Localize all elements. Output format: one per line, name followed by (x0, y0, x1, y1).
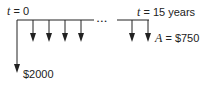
end-time-label: t = 15 years (137, 5, 196, 19)
annual-payment-arrows (30, 20, 151, 42)
cash-flow-diagram: • • • t = 0 t = 15 years $2000 A = $750 (0, 0, 206, 85)
ellipsis: • • • (97, 18, 107, 24)
start-time-label: t = 0 (7, 4, 29, 18)
initial-outflow-arrow (14, 20, 20, 73)
annual-amount-label: A = $750 (154, 31, 199, 45)
initial-outflow-label: $2000 (23, 68, 54, 80)
